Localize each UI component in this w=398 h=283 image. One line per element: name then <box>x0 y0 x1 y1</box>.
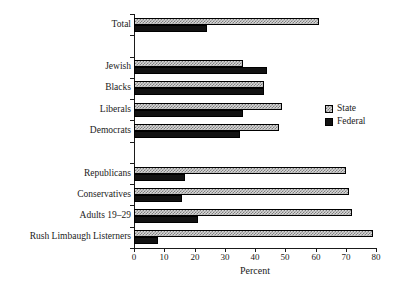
x-axis-tick-label: 40 <box>240 252 270 263</box>
category-label: Liberals <box>100 104 134 115</box>
y-axis-tick <box>130 120 135 121</box>
category-label: Total <box>112 19 134 30</box>
bar-federal <box>134 195 182 202</box>
category-label: Adults 19–29 <box>80 210 134 221</box>
bar-state <box>134 230 373 237</box>
y-axis-tick <box>130 142 135 143</box>
x-axis-title: Percent <box>134 265 376 277</box>
y-axis-tick <box>130 57 135 58</box>
legend-label-state: State <box>337 103 356 114</box>
bar-state <box>134 209 352 216</box>
bar-federal <box>134 216 198 223</box>
bar-state <box>134 60 243 67</box>
solid-black-swatch-icon <box>325 118 333 126</box>
legend-item-federal: Federal <box>325 116 366 127</box>
bar-federal <box>134 88 264 95</box>
legend-label-federal: Federal <box>337 116 366 127</box>
y-axis-tick <box>130 227 135 228</box>
legend-item-state: State <box>325 103 366 114</box>
x-axis-tick-label: 10 <box>149 252 179 263</box>
category-label: Blacks <box>105 82 134 93</box>
category-label: Rush Limbaugh Listerners <box>30 231 134 242</box>
bar-state <box>134 18 319 25</box>
hatched-gray-swatch-icon <box>325 105 333 113</box>
x-axis-tick-label: 50 <box>270 252 300 263</box>
x-axis-tick-label: 20 <box>180 252 210 263</box>
bar-state <box>134 124 279 131</box>
y-axis-tick <box>130 163 135 164</box>
x-axis-tick-label: 0 <box>119 252 149 263</box>
legend: State Federal <box>325 103 366 129</box>
category-label: Jewish <box>105 61 134 72</box>
y-axis-tick <box>130 14 135 15</box>
y-axis-tick <box>130 78 135 79</box>
bar-chart: TotalJewishBlacksLiberalsDemocratsRepubl… <box>0 0 398 283</box>
bar-state <box>134 188 349 195</box>
bar-federal <box>134 174 185 181</box>
x-axis-tick-label: 80 <box>361 252 391 263</box>
bar-federal <box>134 237 158 244</box>
x-axis-tick-label: 60 <box>301 252 331 263</box>
y-axis-tick <box>130 205 135 206</box>
category-label: Conservatives <box>77 189 134 200</box>
y-axis-tick <box>130 99 135 100</box>
category-label: Democrats <box>90 125 134 136</box>
bar-state <box>134 167 346 174</box>
category-label: Republicans <box>84 168 134 179</box>
x-axis-tick-label: 70 <box>331 252 361 263</box>
y-axis-tick <box>130 35 135 36</box>
plot-area <box>134 14 376 248</box>
bar-state <box>134 81 264 88</box>
bar-federal <box>134 25 207 32</box>
x-axis-tick-label: 30 <box>210 252 240 263</box>
bar-state <box>134 103 282 110</box>
y-axis-tick <box>130 184 135 185</box>
bar-federal <box>134 67 267 74</box>
bar-federal <box>134 110 243 117</box>
bar-federal <box>134 131 240 138</box>
